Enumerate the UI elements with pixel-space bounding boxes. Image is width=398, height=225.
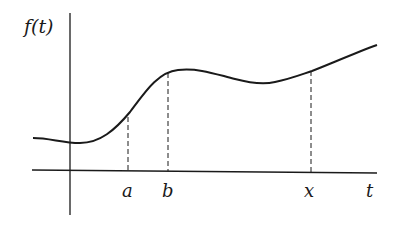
x-axis-label: t xyxy=(366,180,374,201)
function-diagram: f(t) a b x t xyxy=(0,0,398,225)
mark-label-b: b xyxy=(162,180,174,201)
mark-label-x: x xyxy=(304,180,314,201)
function-curve xyxy=(33,45,377,143)
x-axis xyxy=(32,170,377,173)
mark-label-a: a xyxy=(122,180,133,201)
y-axis-label: f(t) xyxy=(22,15,54,37)
